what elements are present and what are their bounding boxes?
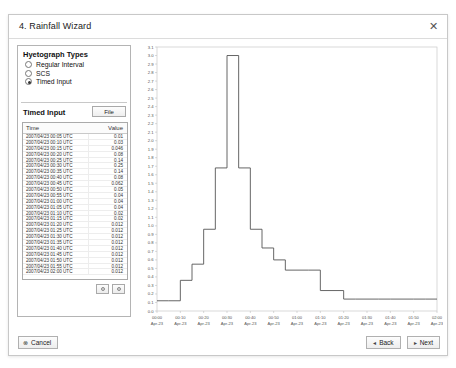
- cell-value: 0.04: [88, 199, 127, 204]
- y-tick-label: 0.7: [148, 249, 154, 254]
- y-tick-label: 1.1: [148, 215, 154, 220]
- dialog-titlebar: 4. Rainfall Wizard ✕: [9, 15, 447, 39]
- y-tick-label: 1.7: [148, 164, 154, 169]
- cell-value: 0.012: [88, 252, 127, 257]
- y-tick-label: 2.8: [148, 70, 154, 75]
- y-tick-label: 0.6: [148, 257, 154, 262]
- next-button[interactable]: ▸ Next: [407, 336, 440, 349]
- x-tick-sublabel: Apr-23: [431, 321, 443, 326]
- cell-time: 2007/04/23 01:40 UTC: [23, 246, 88, 251]
- circle-add-icon[interactable]: [96, 284, 109, 294]
- cell-value: 0.012: [88, 269, 127, 274]
- cell-value: 0.012: [88, 222, 127, 227]
- cell-time: 2007/04/23 00:40 UTC: [23, 175, 88, 180]
- x-tick-label: 01:00: [292, 315, 303, 320]
- radio-timed-input-dot[interactable]: [25, 78, 32, 85]
- cell-time: 2007/04/23 01:50 UTC: [23, 258, 88, 263]
- cell-value: 0.05: [88, 187, 127, 192]
- radio-scs[interactable]: SCS: [25, 70, 130, 77]
- cell-value: 0.02: [88, 211, 127, 216]
- y-tick-label: 2.6: [148, 87, 154, 92]
- cell-time: 2007/04/23 00:45 UTC: [23, 181, 88, 186]
- cell-value: 0.14: [88, 158, 127, 163]
- x-tick-label: 01:30: [362, 315, 373, 320]
- cell-time: 2007/04/23 01:30 UTC: [23, 234, 88, 239]
- y-tick-label: 0.5: [148, 266, 154, 271]
- back-button-label: Back: [379, 339, 393, 346]
- cell-value: 0.03: [88, 140, 127, 145]
- x-tick-label: 00:10: [175, 315, 186, 320]
- y-tick-label: 0.1: [148, 300, 154, 305]
- cell-value: 0.012: [88, 264, 127, 269]
- cell-value: 0.012: [88, 240, 127, 245]
- table-header-row: Time Value: [23, 123, 127, 134]
- cancel-button[interactable]: ⊗ Cancel: [18, 336, 58, 349]
- radio-timed-input-label: Timed Input: [36, 78, 72, 85]
- table-body[interactable]: 2007/04/23 00:05 UTC0.012007/04/23 00:10…: [23, 134, 127, 280]
- cancel-circle-icon: ⊗: [23, 340, 28, 346]
- cell-value: 0.012: [88, 234, 127, 239]
- column-header-value: Value: [88, 123, 127, 133]
- radio-timed-input[interactable]: Timed Input: [25, 78, 130, 85]
- radio-regular-interval-dot[interactable]: [25, 61, 32, 68]
- wizard-nav-buttons: ◂ Back ▸ Next: [366, 336, 440, 349]
- y-tick-label: 1.4: [148, 189, 154, 194]
- y-tick-label: 0.9: [148, 232, 154, 237]
- circle-remove-icon[interactable]: [112, 284, 125, 294]
- x-tick-label: 01:10: [315, 315, 326, 320]
- cell-value: 0.04: [88, 205, 127, 210]
- radio-scs-dot[interactable]: [25, 70, 32, 77]
- cell-time: 2007/04/23 00:55 UTC: [23, 193, 88, 198]
- cell-time: 2007/04/23 01:35 UTC: [23, 240, 88, 245]
- cell-value: 0.08: [88, 152, 127, 157]
- cell-time: 2007/04/23 00:25 UTC: [23, 158, 88, 163]
- y-tick-label: 2.1: [148, 130, 154, 135]
- x-tick-sublabel: Apr-23: [174, 321, 187, 326]
- panel-divider: [21, 102, 127, 103]
- x-tick-label: 01:20: [339, 315, 350, 320]
- next-button-label: Next: [420, 339, 433, 346]
- y-tick-label: 3.0: [148, 53, 154, 58]
- y-tick-label: 2.2: [148, 121, 154, 126]
- back-button[interactable]: ◂ Back: [366, 336, 400, 349]
- y-tick-label: 2.9: [148, 62, 154, 67]
- y-tick-label: 0.2: [148, 291, 154, 296]
- radio-regular-interval-label: Regular Interval: [36, 61, 84, 68]
- column-header-time: Time: [23, 123, 88, 133]
- cell-value: 0.046: [88, 146, 127, 151]
- x-tick-label: 00:50: [269, 315, 280, 320]
- y-tick-label: 1.0: [148, 223, 154, 228]
- close-icon[interactable]: ✕: [427, 20, 440, 33]
- rainfall-wizard-dialog: 4. Rainfall Wizard ✕ Hyetograph Types Re…: [8, 14, 448, 356]
- x-tick-sublabel: Apr-23: [221, 321, 234, 326]
- x-tick-sublabel: Apr-23: [198, 321, 211, 326]
- hyetograph-panel: Hyetograph Types Regular Interval SCS Ti…: [17, 45, 131, 317]
- cell-time: 2007/04/23 01:55 UTC: [23, 264, 88, 269]
- x-tick-label: 00:20: [199, 315, 210, 320]
- x-tick-sublabel: Apr-23: [151, 321, 164, 326]
- y-tick-label: 1.8: [148, 155, 154, 160]
- y-tick-label: 2.7: [148, 79, 154, 84]
- y-tick-label: 1.2: [148, 206, 154, 211]
- y-tick-label: 1.6: [148, 172, 154, 177]
- timed-input-header: Timed Input File: [18, 106, 130, 120]
- dialog-title: 4. Rainfall Wizard: [19, 21, 91, 31]
- cell-time: 2007/04/23 01:25 UTC: [23, 228, 88, 233]
- timed-input-table[interactable]: Time Value 2007/04/23 00:05 UTC0.012007/…: [22, 122, 128, 280]
- cell-value: 0.062: [88, 181, 127, 186]
- cell-time: 2007/04/23 01:05 UTC: [23, 205, 88, 210]
- cell-value: 0.012: [88, 246, 127, 251]
- file-button[interactable]: File: [92, 106, 126, 117]
- table-row[interactable]: 2007/04/23 02:00 UTC0.012: [23, 269, 127, 275]
- chevron-right-icon: ▸: [414, 340, 417, 346]
- cell-time: 2007/04/23 00:05 UTC: [23, 134, 88, 139]
- x-tick-sublabel: Apr-23: [314, 321, 327, 326]
- y-tick-label: 1.5: [148, 181, 154, 186]
- radio-regular-interval[interactable]: Regular Interval: [25, 61, 130, 68]
- cell-value: 0.25: [88, 163, 127, 168]
- cell-time: 2007/04/23 01:10 UTC: [23, 211, 88, 216]
- y-tick-label: 1.9: [148, 147, 154, 152]
- hyetograph-types-heading: Hyetograph Types: [23, 50, 130, 59]
- cell-value: 0.14: [88, 169, 127, 174]
- x-tick-sublabel: Apr-23: [408, 321, 421, 326]
